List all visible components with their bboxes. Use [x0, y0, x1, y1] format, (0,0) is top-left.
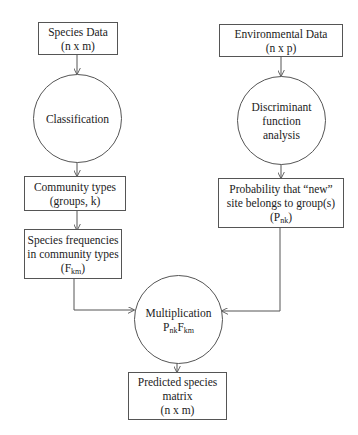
species-frequencies-box: Species frequencies in community types (… [24, 229, 122, 279]
environmental-data-title: Environmental Data [235, 27, 328, 41]
predicted-line1: Predicted species [138, 375, 218, 389]
predicted-line2: matrix [162, 389, 192, 403]
community-types-title: Community types [34, 180, 116, 194]
discriminant-line1: Discriminant [251, 100, 311, 114]
species-data-dims: (n x m) [61, 39, 95, 53]
edge-frequencies-to-multiplication [74, 278, 134, 310]
species-frequencies-formula: (Fkm) [61, 261, 85, 275]
multiplication-circle: Multiplication PnkFkm [134, 275, 223, 364]
multiplication-formula: PnkFkm [163, 320, 194, 334]
community-types-box: Community types (groups, k) [24, 176, 126, 211]
formula-f-subscript: km [184, 326, 194, 335]
environmental-data-box: Environmental Data (n x p) [219, 24, 343, 57]
classification-circle: Classification [33, 74, 122, 163]
formula-tail: ) [81, 262, 85, 274]
community-types-groups: (groups, k) [50, 194, 100, 208]
predicted-line3: (n x m) [161, 403, 195, 417]
probability-formula: (Pnk) [270, 210, 292, 224]
species-frequencies-line2: in community types [27, 247, 118, 261]
species-data-title: Species Data [48, 25, 108, 39]
edge-probability-to-multiplication [222, 227, 280, 311]
formula-subscript: km [71, 267, 81, 276]
species-frequencies-line1: Species frequencies [27, 233, 118, 247]
predicted-species-matrix-box: Predicted species matrix (n x m) [128, 372, 227, 420]
probability-line1: Probability that “new” [229, 182, 332, 196]
multiplication-label: Multiplication [146, 306, 212, 320]
environmental-data-dims: (n x p) [266, 41, 297, 55]
species-data-box: Species Data (n x m) [38, 22, 118, 55]
discriminant-analysis-circle: Discriminant function analysis [237, 76, 326, 165]
formula-subscript: nk [280, 216, 288, 225]
probability-line2: site belongs to group(s) [227, 196, 335, 210]
discriminant-line3: analysis [263, 128, 300, 142]
discriminant-line2: function [262, 114, 300, 128]
probability-box: Probability that “new” site belongs to g… [218, 178, 344, 228]
formula-base: (P [270, 211, 280, 223]
formula-tail: ) [288, 211, 292, 223]
classification-label: Classification [46, 112, 109, 126]
formula-base: (F [61, 262, 71, 274]
